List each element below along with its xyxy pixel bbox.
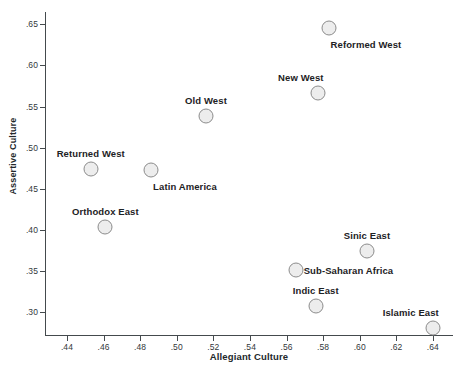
scatter-plot-figure: .65.60.55.50.45.40.35.30 .44.46.48.50.52… (0, 0, 458, 368)
data-point-marker[interactable] (425, 321, 440, 336)
data-point-marker[interactable] (310, 86, 325, 101)
y-axis-title: Assertive Culture (8, 96, 18, 216)
x-tick-mark (177, 336, 178, 341)
x-tick-mark (140, 336, 141, 341)
data-point-marker[interactable] (308, 299, 323, 314)
y-axis-line (45, 12, 46, 336)
x-tick-mark (104, 336, 105, 341)
data-point-label: Old West (185, 95, 227, 106)
y-tick-mark (40, 230, 45, 231)
data-point-label: Returned West (57, 147, 125, 158)
x-tick-mark (360, 336, 361, 341)
data-point-marker[interactable] (98, 219, 113, 234)
y-tick-label: .50 (26, 143, 38, 153)
y-tick-mark (40, 271, 45, 272)
data-point-marker[interactable] (144, 162, 159, 177)
data-point-label: Latin America (153, 180, 217, 191)
data-point-label: Indic East (293, 285, 339, 296)
data-point-marker[interactable] (199, 109, 214, 124)
data-point-label: Sub-Saharan Africa (304, 265, 394, 276)
x-tick-mark (67, 336, 68, 341)
data-point-label: Islamic East (383, 307, 439, 318)
y-tick-mark (40, 189, 45, 190)
y-tick-label: .60 (26, 60, 38, 70)
x-tick-mark (433, 336, 434, 341)
y-tick-mark (40, 148, 45, 149)
data-point-marker[interactable] (288, 263, 303, 278)
data-point-marker[interactable] (360, 244, 375, 259)
x-tick-mark (250, 336, 251, 341)
data-point-label: Sinic East (344, 230, 390, 241)
data-point-marker[interactable] (321, 20, 336, 35)
y-axis-ticks: .65.60.55.50.45.40.35.30 (0, 0, 38, 368)
y-tick-mark (40, 65, 45, 66)
y-tick-label: .35 (26, 266, 38, 276)
y-tick-label: .40 (26, 225, 38, 235)
y-tick-mark (40, 312, 45, 313)
data-point-marker[interactable] (83, 161, 98, 176)
x-axis-title: Allegiant Culture (45, 351, 453, 362)
x-tick-mark (323, 336, 324, 341)
y-tick-label: .55 (26, 102, 38, 112)
data-point-label: Orthodox East (72, 205, 139, 216)
y-tick-label: .65 (26, 19, 38, 29)
data-point-label: Reformed West (331, 38, 402, 49)
y-tick-mark (40, 24, 45, 25)
y-tick-label: .30 (26, 307, 38, 317)
y-tick-label: .45 (26, 184, 38, 194)
data-point-label: New West (278, 72, 324, 83)
x-tick-mark (396, 336, 397, 341)
x-tick-mark (213, 336, 214, 341)
x-tick-mark (287, 336, 288, 341)
y-tick-mark (40, 107, 45, 108)
